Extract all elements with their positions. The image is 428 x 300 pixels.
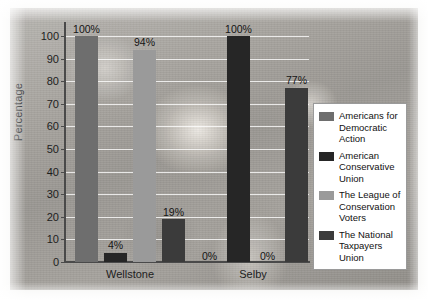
gridline (65, 149, 309, 150)
y-axis-tick-mark (61, 59, 65, 60)
y-axis-tick-label: 40 (29, 166, 59, 177)
legend-item: The League of Conservation Voters (319, 189, 401, 224)
y-axis-tick-mark (61, 194, 65, 195)
legend-item-label: American Conservative Union (339, 150, 401, 185)
y-axis-tick-mark (61, 104, 65, 105)
bar-value-label: 94% (134, 37, 155, 48)
legend-item: American Conservative Union (319, 150, 401, 185)
legend-swatch (319, 231, 334, 240)
chart-image: 1009080706050403020100 100%4%94%19%0%100… (0, 0, 428, 300)
y-axis-tick-mark (61, 262, 65, 263)
y-axis-tick-label: 20 (29, 211, 59, 222)
y-axis-tick-mark (61, 149, 65, 150)
bar: 4% (104, 253, 127, 262)
y-axis-tick-mark (61, 36, 65, 37)
bar-value-label: 4% (108, 240, 123, 251)
gridline (65, 59, 309, 60)
y-axis-tick-label: 90 (29, 53, 59, 64)
y-axis-tick-label: 0 (29, 257, 59, 268)
bar-value-label: 100% (225, 24, 252, 35)
x-axis-group-label: Wellstone (106, 268, 154, 280)
legend-swatch (319, 112, 334, 121)
bar-value-label: 100% (73, 24, 100, 35)
y-axis-tick-label: 100 (29, 31, 59, 42)
bar: 19% (162, 219, 185, 262)
y-axis-tick-mark (61, 126, 65, 127)
y-axis-tick-mark (61, 239, 65, 240)
y-axis-title: Percentage (12, 83, 24, 141)
y-axis-tick-label: 70 (29, 98, 59, 109)
legend-item-label: Americans for Democratic Action (339, 110, 401, 145)
gridline (65, 104, 309, 105)
y-axis-tick-label: 50 (29, 144, 59, 155)
legend-item-label: The National Taxpayers Union (339, 229, 401, 264)
y-axis-tick-label: 80 (29, 76, 59, 87)
gridline (65, 194, 309, 195)
y-axis-tick-mark (61, 217, 65, 218)
bar-value-label: 0% (202, 251, 217, 262)
gridline (65, 239, 309, 240)
y-axis-tick-label: 30 (29, 189, 59, 200)
gridline (65, 36, 309, 37)
gridline (65, 126, 309, 127)
bar-value-label: 0% (260, 251, 275, 262)
plot-area: 1009080706050403020100 100%4%94%19%0%100… (65, 36, 309, 262)
x-axis-group-label: Selby (239, 268, 267, 280)
bar: 94% (133, 50, 156, 262)
gridline (65, 81, 309, 82)
y-axis-tick-mark (61, 172, 65, 173)
gridline (65, 172, 309, 173)
legend-swatch (319, 152, 334, 161)
bar-value-label: 19% (163, 207, 184, 218)
gridline (65, 217, 309, 218)
bar: 100% (227, 36, 250, 262)
legend: Americans for Democratic ActionAmerican … (313, 103, 407, 270)
legend-swatch (319, 191, 334, 200)
y-axis-tick-label: 10 (29, 234, 59, 245)
y-axis-tick-label: 60 (29, 121, 59, 132)
bar-value-label: 77% (286, 75, 307, 86)
bar: 100% (75, 36, 98, 262)
legend-item-label: The League of Conservation Voters (339, 189, 401, 224)
bar: 77% (285, 88, 308, 262)
y-axis-tick-mark (61, 81, 65, 82)
legend-item: The National Taxpayers Union (319, 229, 401, 264)
legend-item: Americans for Democratic Action (319, 110, 401, 145)
